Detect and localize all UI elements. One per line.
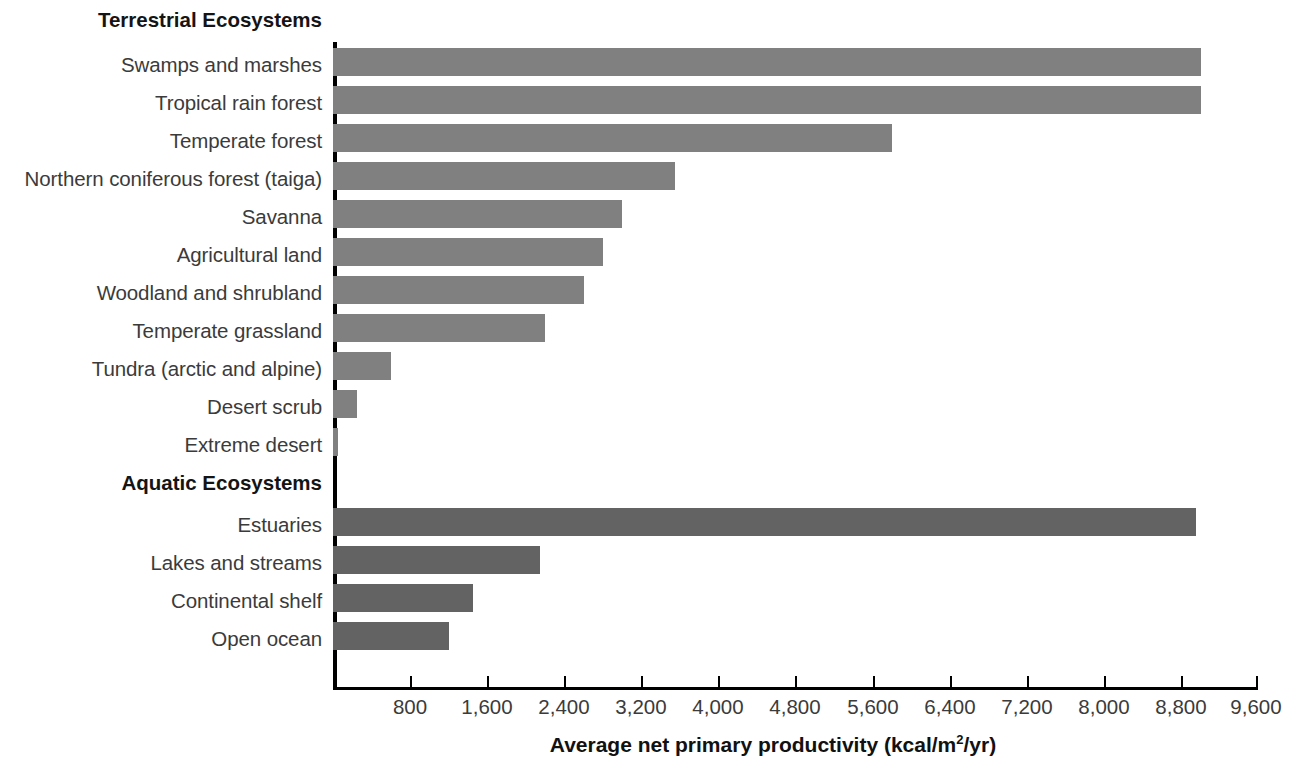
- bar-continental-shelf: [333, 584, 473, 612]
- category-label-agricultural-land: Agricultural land: [0, 245, 322, 266]
- x-axis-tick: [1104, 676, 1106, 688]
- x-axis-tick: [641, 676, 643, 688]
- group-heading-terrestrial: Terrestrial Ecosystems: [0, 10, 322, 31]
- x-axis-tick: [1027, 676, 1029, 688]
- category-label-column: Terrestrial Ecosystems Swamps and marshe…: [0, 0, 322, 774]
- bar-chart: Terrestrial Ecosystems Swamps and marshe…: [0, 0, 1306, 774]
- x-tick-label: 3,200: [615, 697, 666, 718]
- category-label-lakes-and-streams: Lakes and streams: [0, 553, 322, 574]
- bar-extreme-desert: [333, 428, 338, 456]
- x-axis-title-superscript: 2: [956, 732, 963, 747]
- x-axis-tick: [487, 676, 489, 688]
- plot-area: [333, 0, 1306, 774]
- category-label-swamps-and-marshes: Swamps and marshes: [0, 55, 322, 76]
- bar-temperate-grassland: [333, 314, 545, 342]
- x-tick-label: 6,400: [924, 697, 975, 718]
- category-label-estuaries: Estuaries: [0, 515, 322, 536]
- x-axis-title-before: Average net primary productivity (kcal/m: [550, 733, 957, 756]
- x-tick-label: 1,600: [461, 697, 512, 718]
- x-tick-label: 9,600: [1230, 697, 1281, 718]
- x-tick-label: 4,800: [769, 697, 820, 718]
- x-tick-label: 4,000: [692, 697, 743, 718]
- x-tick-label: 8,800: [1155, 697, 1206, 718]
- x-axis-tick-labels: 800 1,600 2,400 3,200 4,000 4,800 5,600 …: [333, 697, 1306, 727]
- x-axis-tick: [1256, 676, 1258, 688]
- x-axis-tick: [410, 676, 412, 688]
- category-label-temperate-forest: Temperate forest: [0, 131, 322, 152]
- bar-temperate-forest: [333, 124, 892, 152]
- x-axis-tick: [564, 676, 566, 688]
- category-label-extreme-desert: Extreme desert: [0, 435, 322, 456]
- category-label-savanna: Savanna: [0, 207, 322, 228]
- category-label-tropical-rain-forest: Tropical rain forest: [0, 93, 322, 114]
- x-axis-tick: [795, 676, 797, 688]
- bar-swamps-and-marshes: [333, 48, 1201, 76]
- bar-woodland-and-shrubland: [333, 276, 584, 304]
- x-axis-tick: [950, 676, 952, 688]
- x-axis-tick: [1181, 676, 1183, 688]
- x-tick-label: 5,600: [847, 697, 898, 718]
- x-tick-label: 800: [393, 697, 427, 718]
- category-label-northern-coniferous-forest-taiga: Northern coniferous forest (taiga): [0, 169, 322, 190]
- group-heading-aquatic: Aquatic Ecosystems: [0, 473, 322, 494]
- bar-estuaries: [333, 508, 1196, 536]
- x-tick-label: 7,200: [1001, 697, 1052, 718]
- category-label-temperate-grassland: Temperate grassland: [0, 321, 322, 342]
- bar-agricultural-land: [333, 238, 603, 266]
- bar-tropical-rain-forest: [333, 86, 1201, 114]
- bar-tundra-arctic-and-alpine: [333, 352, 391, 380]
- category-label-open-ocean: Open ocean: [0, 629, 322, 650]
- bar-desert-scrub: [333, 390, 357, 418]
- bar-northern-coniferous-forest-taiga: [333, 162, 675, 190]
- x-tick-label: 2,400: [538, 697, 589, 718]
- category-label-continental-shelf: Continental shelf: [0, 591, 322, 612]
- x-axis-tick: [718, 676, 720, 688]
- category-label-desert-scrub: Desert scrub: [0, 397, 322, 418]
- category-label-tundra-arctic-and-alpine: Tundra (arctic and alpine): [0, 359, 322, 380]
- category-label-woodland-and-shrubland: Woodland and shrubland: [0, 283, 322, 304]
- x-axis-title-after: /yr): [964, 733, 997, 756]
- x-axis-title: Average net primary productivity (kcal/m…: [0, 733, 1306, 757]
- x-axis-tick: [873, 676, 875, 688]
- bar-lakes-and-streams: [333, 546, 540, 574]
- bar-open-ocean: [333, 622, 449, 650]
- x-tick-label: 8,000: [1078, 697, 1129, 718]
- bar-savanna: [333, 200, 622, 228]
